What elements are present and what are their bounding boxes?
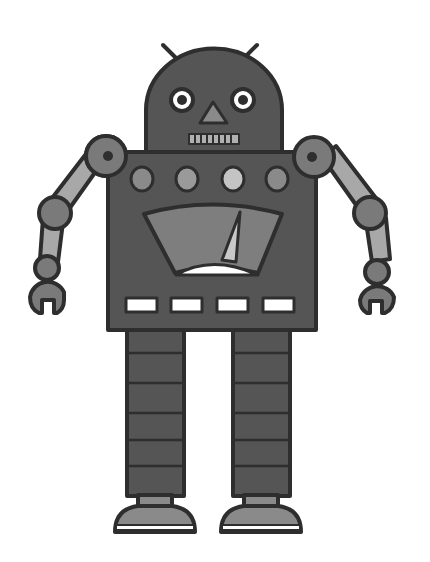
head: [146, 48, 282, 152]
mouth-teeth: [189, 134, 239, 144]
foot-left: [115, 506, 195, 532]
chest-slot-2: [171, 298, 202, 312]
chest-button-1: [131, 167, 153, 191]
chest-slot-4: [263, 298, 294, 312]
shoulder-right: [294, 137, 334, 177]
leg-left: [127, 326, 184, 507]
shoulder-left: [86, 136, 126, 176]
chest-slot-3: [217, 298, 248, 312]
robot-canvas: [0, 0, 430, 562]
torso: [108, 152, 316, 330]
leg-right: [233, 326, 290, 507]
chest-button-3: [222, 167, 244, 191]
arm-right: [322, 146, 394, 313]
chest-button-4: [266, 167, 288, 191]
chest-button-2: [176, 167, 198, 191]
eye-right: [232, 89, 254, 111]
robot-illustration: [0, 0, 430, 562]
eye-left: [171, 89, 193, 111]
chest-slot-1: [126, 298, 157, 312]
foot-right: [221, 506, 301, 532]
